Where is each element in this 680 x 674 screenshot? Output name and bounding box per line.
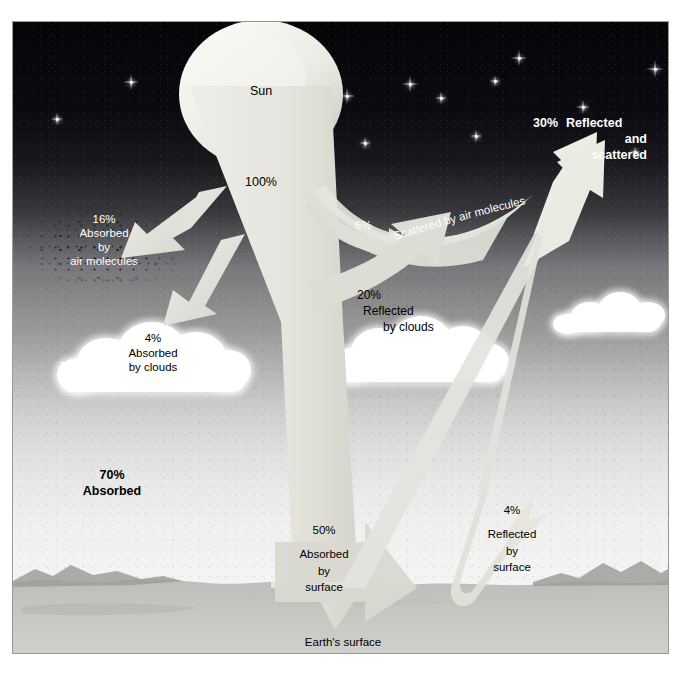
label-reflected-clouds-pct: 20% [357,288,487,304]
label-reflected-and-scattered: 30% Reflected and scattered [533,115,663,163]
label-absorbed-total-pct: 70% [47,467,177,483]
label-reflected-scattered-pct: 30% [533,115,558,131]
label-absorbed-air-l2: by [27,240,181,254]
curved-text-svg: Scattered by air molecules [393,184,623,254]
label-absorbed-surface-pct: 50% [269,522,379,538]
label-reflected-scattered-l1: Reflected [566,115,622,131]
label-reflected-surface-l2: by [457,543,567,559]
label-incoming-100: 100% [211,175,311,190]
label-absorbed-clouds: 4% Absorbed by clouds [83,331,223,375]
label-scattered-pct: 6% [355,218,372,232]
label-earth-surface: Earth's surface [263,635,423,649]
label-reflected-clouds: 20% Reflected by clouds [357,288,487,335]
svg-text:Scattered by air molecules: Scattered by air molecules [393,194,527,242]
label-absorbed-clouds-l2: by clouds [83,360,223,375]
label-reflected-surface-l3: surface [457,559,567,575]
label-absorbed-clouds-l1: Absorbed [83,346,223,361]
label-absorbed-clouds-pct: 4% [83,331,223,346]
label-reflected-clouds-l2: by clouds [357,320,487,336]
label-reflected-scattered-l3: scattered [533,147,663,163]
label-absorbed-surface-l1: Absorbed [269,546,379,562]
curved-text: Scattered by air molecules [393,194,527,242]
label-scattered-by-air-molecules: Scattered by air molecules [393,184,623,254]
label-absorbed-total-l1: Absorbed [47,483,177,499]
diagram-canvas: Sun 100% 16% Absorbed by air molecules 4… [0,0,680,674]
label-absorbed-surface: 50% Absorbed by surface [269,522,379,595]
label-absorbed-air-pct: 16% [27,212,181,226]
label-absorbed-air-l3: air molecules [27,254,181,268]
label-reflected-scattered-l2: and [533,131,663,147]
label-absorbed-air-l1: Absorbed [27,226,181,240]
label-sun: Sun [211,84,311,99]
label-absorbed-surface-l2: by [269,563,379,579]
label-reflected-clouds-l1: Reflected [357,304,487,320]
label-reflected-surface-pct: 4% [457,502,567,518]
label-absorbed-surface-l3: surface [269,579,379,595]
label-absorbed-total: 70% Absorbed [47,467,177,499]
label-reflected-surface-l1: Reflected [457,526,567,542]
artwork-frame: Sun 100% 16% Absorbed by air molecules 4… [12,21,669,654]
label-reflected-surface: 4% Reflected by surface [457,502,567,575]
label-absorbed-air-molecules: 16% Absorbed by air molecules [27,212,181,268]
